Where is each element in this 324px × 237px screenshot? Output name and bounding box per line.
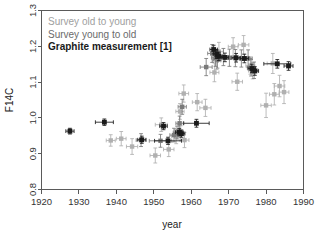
data-point (184, 119, 209, 127)
data-points-layer (66, 36, 293, 163)
x-tick-label: 1940 (106, 196, 127, 207)
x-tick-label: 1970 (218, 196, 239, 207)
data-point (221, 53, 228, 62)
y-axis-ticks: 0.80.91.01.11.21.3 (27, 4, 42, 196)
data-point (66, 128, 74, 134)
series-3 (66, 45, 293, 144)
data-point (106, 135, 115, 146)
data-point (261, 93, 271, 117)
x-axis-title: year (162, 219, 182, 230)
data-point (150, 148, 160, 163)
figure-container: 0.80.91.01.11.21.3 192019301940195019601… (0, 0, 324, 237)
x-axis-ticks: 19201930194019501960197019801990 (31, 190, 314, 207)
x-tick-label: 1990 (293, 196, 314, 207)
y-tick-label: 0.8 (27, 183, 38, 196)
y-tick-label: 1.2 (27, 40, 38, 53)
x-tick-label: 1950 (143, 196, 164, 207)
y-tick-label: 0.9 (27, 147, 38, 160)
legend-item-2: Survey young to old (48, 29, 136, 40)
legend-item-1: Survey old to young (48, 16, 136, 27)
y-tick-label: 1.3 (27, 4, 38, 17)
y-tick-label: 1.1 (27, 75, 38, 88)
data-point (95, 119, 113, 125)
data-point (238, 36, 248, 55)
x-tick-label: 1980 (256, 196, 277, 207)
data-point (200, 58, 212, 75)
x-tick-label: 1960 (181, 196, 202, 207)
series-1 (106, 36, 289, 163)
data-point (232, 73, 242, 90)
x-tick-label: 1920 (31, 196, 52, 207)
scatter-plot: 0.80.91.01.11.21.3 192019301940195019601… (0, 0, 324, 237)
data-point (116, 132, 126, 146)
y-axis-title: F14C (4, 88, 15, 112)
y-tick-label: 1.0 (27, 111, 38, 124)
x-tick-label: 1930 (68, 196, 89, 207)
legend-item-3: Graphite measurement [1] (48, 41, 172, 52)
data-point (284, 62, 293, 71)
chart-legend: Survey old to youngSurvey young to oldGr… (48, 16, 172, 52)
